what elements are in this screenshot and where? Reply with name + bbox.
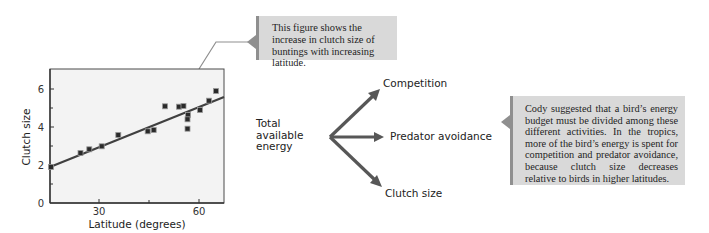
scatter-chart — [49, 69, 225, 203]
callout-right-pointer-icon — [501, 115, 510, 129]
callout-right: Cody suggested that a bird’s energy budg… — [510, 96, 685, 185]
source-label-line: energy — [256, 141, 303, 153]
plot-area — [50, 69, 224, 203]
y-tick-4: 4 — [38, 122, 44, 133]
x-tick-30: 30 — [93, 206, 106, 217]
arrow-competition — [330, 95, 374, 137]
source-label: Total available energy — [256, 118, 303, 153]
y-tick-0: 0 — [38, 198, 44, 209]
x-tick-60: 60 — [193, 206, 206, 217]
x-axis-label: Latitude (degrees) — [88, 218, 185, 230]
y-axis-label: Clutch size — [20, 108, 32, 165]
arrow-clutch — [330, 137, 375, 180]
y-tick-6: 6 — [38, 84, 44, 95]
source-label-line: Total — [256, 118, 303, 130]
energy-arrows — [308, 89, 384, 187]
target-competition: Competition — [383, 77, 447, 89]
callout-connector — [199, 42, 248, 69]
callout-top-pointer-icon — [247, 35, 256, 49]
arrowhead-right-icon — [374, 132, 384, 142]
target-clutch-size: Clutch size — [385, 187, 442, 199]
y-tick-2: 2 — [38, 160, 44, 171]
target-predator-avoidance: Predator avoidance — [390, 130, 492, 142]
callout-top: This figure shows the increase in clutch… — [256, 16, 397, 60]
